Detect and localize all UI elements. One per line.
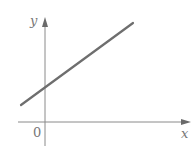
function-line bbox=[21, 23, 133, 105]
origin-label: 0 bbox=[33, 125, 41, 140]
graph-canvas: y x 0 bbox=[0, 0, 195, 160]
y-axis-arrow-icon bbox=[42, 17, 48, 27]
y-axis-label: y bbox=[29, 13, 38, 28]
x-axis-label: x bbox=[181, 126, 189, 141]
x-axis-arrow-icon bbox=[181, 119, 191, 125]
